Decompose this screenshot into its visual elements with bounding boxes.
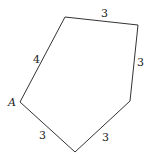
side-label-topleft-a: 4 (33, 53, 40, 66)
side-label-bottom-rightlower: 3 (102, 131, 109, 144)
pentagon-shape (20, 17, 138, 152)
side-label-a-bottom: 3 (39, 129, 46, 142)
side-label-rightlower-rightupper: 3 (137, 56, 144, 69)
diagram-svg: A 3 3 3 3 4 (0, 0, 148, 166)
pentagon-diagram: A 3 3 3 3 4 (0, 0, 148, 166)
vertex-label-a: A (7, 96, 16, 109)
side-label-rightupper-topleft: 3 (101, 7, 108, 20)
